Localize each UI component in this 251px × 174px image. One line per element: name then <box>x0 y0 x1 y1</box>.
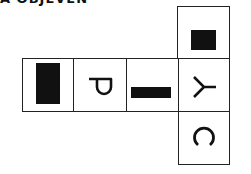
net-cell-top <box>177 6 230 59</box>
net-cell-left <box>22 58 74 112</box>
net-cell-center <box>178 58 230 112</box>
net-cell-middle-right <box>126 58 179 112</box>
net-cell-middle-left <box>73 58 127 112</box>
black-square-icon <box>191 30 216 50</box>
black-horizontal-bar-icon <box>131 87 171 98</box>
rotated-letter-y-icon <box>192 75 218 99</box>
black-vertical-rectangle-icon <box>36 63 60 104</box>
rotated-letter-p-icon <box>87 76 115 98</box>
net-cell-bottom <box>178 111 230 165</box>
puzzle-heading: A OBJEVEN <box>0 0 88 6</box>
rotated-letter-c-icon <box>190 123 218 151</box>
